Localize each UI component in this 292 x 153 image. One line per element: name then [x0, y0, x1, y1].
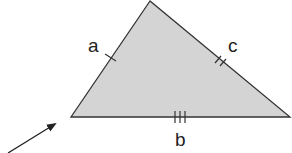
side-c-label: c — [228, 35, 238, 56]
arrow-icon — [8, 124, 55, 153]
side-b-label: b — [175, 129, 186, 150]
side-a-label: a — [88, 35, 99, 56]
triangle-diagram: a c b — [0, 0, 292, 153]
triangle-shape — [71, 1, 290, 117]
